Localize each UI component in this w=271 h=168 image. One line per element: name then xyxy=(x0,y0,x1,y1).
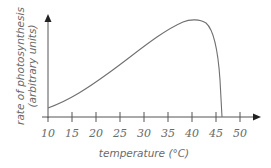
x-tick-20: 20 xyxy=(88,127,103,140)
x-axis-arrow-icon xyxy=(253,114,261,121)
x-tick-30: 30 xyxy=(137,127,151,140)
y-axis-title-line1: rate of photosynthesis xyxy=(14,7,26,125)
photosynthesis-chart: 10 15 20 25 30 35 40 45 50 temperature (… xyxy=(0,0,271,168)
y-axis-arrow-icon xyxy=(45,14,52,22)
x-tick-45: 45 xyxy=(208,127,223,140)
x-tick-35: 35 xyxy=(161,127,175,140)
y-axis-title-line2: (arbitrary units) xyxy=(26,24,38,107)
x-tick-40: 40 xyxy=(184,127,199,140)
x-tick-10: 10 xyxy=(41,127,55,140)
photosynthesis-curve xyxy=(48,20,222,117)
x-tick-50: 50 xyxy=(233,127,247,140)
x-axis-title: temperature (°C) xyxy=(99,147,189,159)
x-tick-15: 15 xyxy=(65,127,79,140)
x-tick-25: 25 xyxy=(112,127,127,140)
x-tick-labels: 10 15 20 25 30 35 40 45 50 xyxy=(41,127,247,140)
